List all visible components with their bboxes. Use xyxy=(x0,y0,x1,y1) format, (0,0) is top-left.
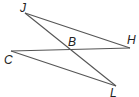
label-h: H xyxy=(127,33,136,47)
label-c: C xyxy=(4,53,13,67)
segment-cl xyxy=(11,51,116,86)
label-j: J xyxy=(19,1,27,15)
label-l: L xyxy=(110,86,117,97)
segment-jh xyxy=(25,13,130,48)
geometry-diagram: J B H C L xyxy=(0,0,139,97)
label-b: B xyxy=(68,35,76,49)
